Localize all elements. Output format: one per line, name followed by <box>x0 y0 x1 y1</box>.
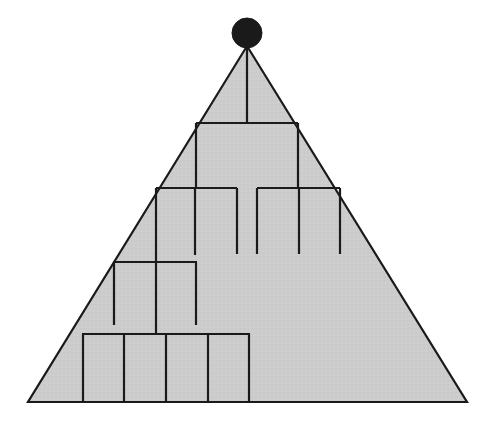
root-node-circle <box>232 18 262 48</box>
pyramid-tree-diagram <box>0 0 494 423</box>
figure-root: Pyramid Tree Diagram Hierarchical pyrami… <box>0 0 494 423</box>
